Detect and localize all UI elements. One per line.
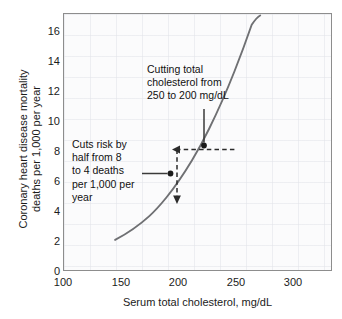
y-axis-title: Coronary heart disease mortality deaths …	[17, 20, 43, 278]
chart-figure: 16 14 12 10 8 6 4 2 0 100 150 200 250 30…	[0, 0, 342, 319]
y-tick-label: 10	[40, 116, 60, 127]
x-tick-label: 250	[219, 277, 253, 288]
x-tick-label: 200	[161, 277, 195, 288]
y-axis-title-line-2: deaths per 1,000 per year	[30, 20, 43, 278]
data-curve-chd-mortality	[115, 16, 260, 240]
x-tick-label: 150	[104, 277, 138, 288]
cutting-annotation-point-dot	[201, 143, 207, 149]
annotation-line: Cutting total	[147, 63, 229, 76]
x-tick-label: 100	[46, 277, 80, 288]
annotation-line: 250 to 200 mg/dL	[147, 89, 229, 102]
annotation-line: cholesterol from	[147, 76, 229, 89]
horizontal-guide-arrowhead	[172, 146, 180, 154]
y-tick-label: 8	[40, 146, 60, 157]
cuts-risk-annotation-point-dot	[168, 171, 174, 177]
annotation-cutting-total-cholesterol: Cutting total cholesterol from 250 to 20…	[147, 63, 229, 103]
y-tick-label: 14	[40, 56, 60, 67]
y-tick-label: 4	[40, 206, 60, 217]
annotation-line: year	[72, 191, 134, 204]
x-axis-title: Serum total cholesterol, mg/dL	[63, 296, 332, 308]
annotation-line: to 4 deaths	[72, 164, 134, 177]
annotation-cuts-risk-by-half: Cuts risk by half from 8 to 4 deaths per…	[72, 138, 134, 204]
y-tick-label: 2	[40, 236, 60, 247]
annotation-line: half from 8	[72, 151, 134, 164]
y-tick-label: 12	[40, 86, 60, 97]
y-tick-label: 16	[40, 26, 60, 37]
y-axis-title-line-1: Coronary heart disease mortality	[17, 20, 30, 278]
y-tick-label: 6	[40, 176, 60, 187]
vertical-guide-arrowhead	[173, 196, 181, 205]
annotation-line: Cuts risk by	[72, 138, 134, 151]
annotation-line: per 1,000 per	[72, 178, 134, 191]
x-tick-label: 300	[276, 277, 310, 288]
